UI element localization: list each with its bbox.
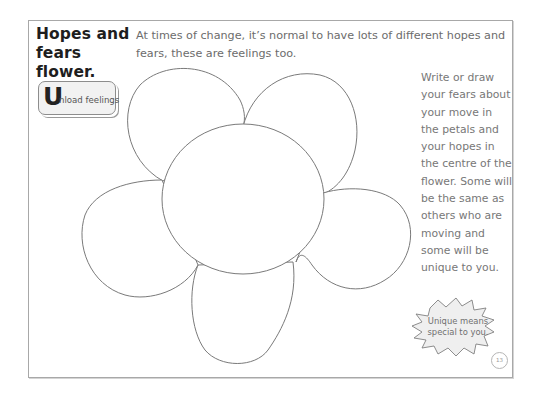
unique-callout: Unique means special to you.: [424, 316, 492, 338]
page-number: 13: [491, 352, 508, 369]
flower-centre[interactable]: [162, 124, 324, 274]
petal-bottom[interactable]: [192, 262, 294, 364]
callout-line-1: Unique means: [424, 316, 492, 327]
instructions-text: Write or draw your fears about your move…: [421, 69, 513, 277]
callout-line-2: special to you.: [424, 327, 492, 338]
